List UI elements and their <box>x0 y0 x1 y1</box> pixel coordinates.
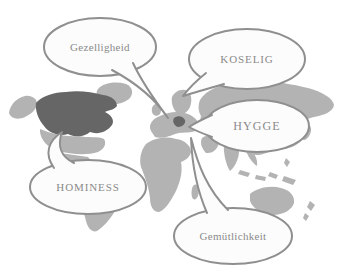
bubble-label-gezelligheid: Gezelligheid <box>70 41 130 53</box>
bubble-label-koselig: KOSELIG <box>220 53 273 65</box>
diagram-canvas: Gezelligheid KOSELIG HYGGE HO <box>0 0 340 279</box>
map-philippines <box>284 158 290 167</box>
map-alaska <box>9 96 37 119</box>
map-canada-highlight <box>36 91 117 136</box>
cozy-words-diagram: Gezelligheid KOSELIG HYGGE HO <box>0 0 340 279</box>
map-new-guinea <box>282 176 296 185</box>
map-africa <box>140 138 191 212</box>
map-indonesia <box>238 170 278 181</box>
bubble-label-hygge: HYGGE <box>233 119 281 133</box>
bubble-label-gemutlichkeit: Gemütlichkeit <box>200 230 267 242</box>
bubble-label-hominess: HOMINESS <box>56 181 119 193</box>
map-new-zealand <box>303 201 315 221</box>
